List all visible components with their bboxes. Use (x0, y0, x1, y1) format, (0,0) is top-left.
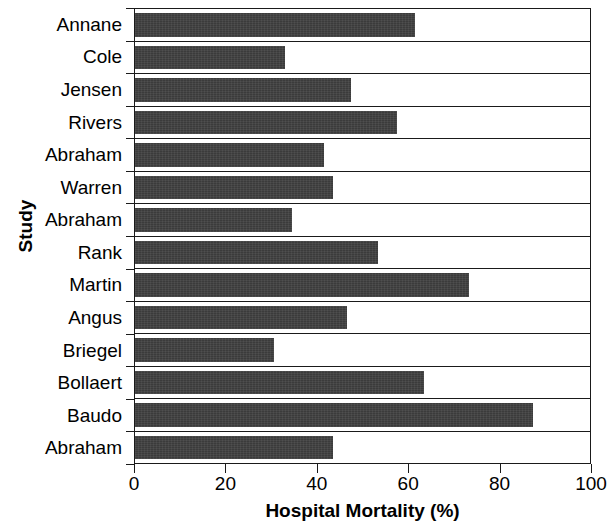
y-axis-category-label: Abraham (18, 203, 128, 236)
bar-row (135, 42, 590, 75)
y-axis-category-label: Abraham (18, 432, 128, 465)
bar (135, 78, 351, 102)
x-axis-tick (225, 464, 226, 473)
x-axis-tick (500, 464, 501, 473)
y-axis-category-label: Bollaert (18, 366, 128, 399)
bar (135, 111, 397, 135)
y-axis-category-label: Briegel (18, 334, 128, 367)
bar (135, 338, 274, 362)
bar (135, 273, 469, 297)
bar-row (135, 204, 590, 237)
bar-rows (135, 9, 590, 463)
y-axis-category-label: Jensen (18, 73, 128, 106)
bar (135, 371, 424, 395)
bar-row (135, 74, 590, 107)
plot-area (134, 8, 591, 464)
bar (135, 306, 347, 330)
y-axis-category-labels: AnnaneColeJensenRiversAbrahamWarrenAbrah… (18, 8, 128, 464)
bar-row (135, 334, 590, 367)
x-axis-ticks (134, 464, 591, 473)
bar (135, 13, 415, 37)
bar-row (135, 107, 590, 140)
x-axis-tick-label: 100 (575, 473, 607, 495)
x-axis-tick-label: 80 (489, 473, 510, 495)
y-axis-category-label: Annane (18, 8, 128, 41)
bar (135, 403, 533, 427)
bar-row (135, 9, 590, 42)
bar-row (135, 269, 590, 302)
x-axis-tick (591, 464, 592, 473)
bar-row (135, 432, 590, 464)
bar-row (135, 367, 590, 400)
bar (135, 176, 333, 200)
bar-row (135, 139, 590, 172)
y-axis-category-label: Angus (18, 301, 128, 334)
y-axis-category-label: Abraham (18, 138, 128, 171)
bar (135, 241, 378, 265)
x-axis-tick-label: 60 (398, 473, 419, 495)
x-axis-tick-label: 40 (306, 473, 327, 495)
bar (135, 208, 292, 232)
x-axis-tick (317, 464, 318, 473)
bar-row (135, 302, 590, 335)
x-axis-title: Hospital Mortality (%) (134, 500, 591, 521)
x-axis-tick-label: 20 (215, 473, 236, 495)
y-axis-category-label: Warren (18, 171, 128, 204)
bar (135, 143, 324, 167)
bar-row (135, 237, 590, 270)
bar (135, 436, 333, 460)
x-axis-tick (408, 464, 409, 473)
bar-row (135, 399, 590, 432)
y-axis-category-label: Baudo (18, 399, 128, 432)
x-axis-tick-label: 0 (129, 473, 140, 495)
bar-row (135, 172, 590, 205)
x-axis-tick-labels: 020406080100 (0, 473, 605, 499)
bar (135, 46, 285, 70)
y-axis-category-label: Rank (18, 236, 128, 269)
y-axis-category-label: Rivers (18, 106, 128, 139)
y-axis-category-label: Martin (18, 269, 128, 302)
y-axis-category-label: Cole (18, 41, 128, 74)
x-axis-tick (134, 464, 135, 473)
